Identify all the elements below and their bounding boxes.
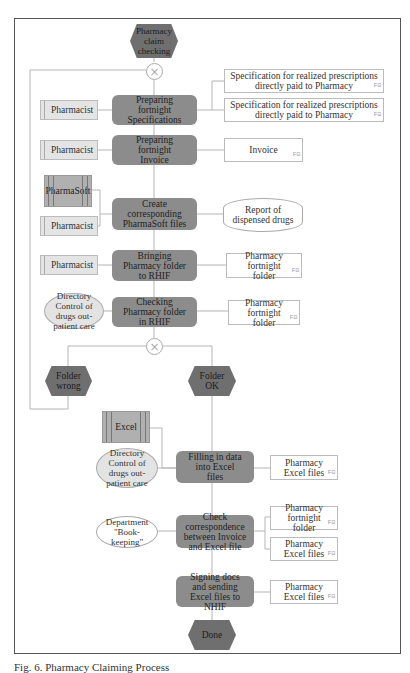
document-label: Pharmacy fortnight folder — [275, 503, 333, 533]
document-fortnight-folder-2: Pharmacy fortnight folderF⊟ — [228, 300, 300, 325]
function-check-correspondence: Check correspondence between Invoice and… — [176, 515, 254, 548]
document-label: Specification for realized prescriptions… — [229, 71, 379, 91]
role-pharmacist-1: Pharmacist — [40, 100, 98, 120]
document-label: Pharmacy fortnight folder — [235, 298, 293, 328]
function-create-pharmasoft-files: Create corresponding PharmaSoft files — [112, 198, 197, 230]
function-bringing-folder: Bringing Pharmacy folder to RHIF — [112, 250, 197, 281]
system-pharmasoft: PharmaSoft — [44, 175, 92, 207]
org-directory-drugs-1: Directory Control of drugs out-patient c… — [44, 293, 104, 329]
event-folder-ok: Folder OK — [188, 366, 236, 396]
document-label: Pharmacy Excel files — [277, 582, 331, 602]
document-tag-icon: F⊟ — [328, 549, 335, 559]
document-tag-icon: F⊟ — [328, 592, 335, 602]
event-folder-wrong: Folder wrong — [45, 366, 92, 396]
end-event: Done — [188, 620, 236, 650]
xor-gateway-2: × — [146, 338, 163, 355]
org-directory-drugs-2: Directory Control of drugs out-patient c… — [96, 448, 158, 488]
role-pharmacist-2: Pharmacist — [40, 140, 98, 160]
function-checking-folder: Checking Pharmacy folder in RHIF — [112, 297, 197, 327]
document-fortnight-folder-1: Pharmacy fortnight folderF⊟ — [226, 253, 302, 278]
function-filling-excel: Filling in data into Excel files — [176, 451, 254, 483]
document-label: Pharmacy fortnight folder — [235, 251, 293, 281]
document-label: Invoice — [249, 145, 278, 155]
document-tag-icon: F⊟ — [374, 110, 381, 120]
function-preparing-invoice: Preparing fortnight Invoice — [112, 135, 197, 165]
document-label: Specification for realized prescriptions… — [229, 100, 379, 120]
document-invoice: InvoiceF⊟ — [224, 138, 303, 162]
document-tag-icon: F⊟ — [374, 81, 381, 91]
document-tag-icon: F⊟ — [292, 266, 299, 276]
function-signing-sending: Signing docs and sending Excel files to … — [176, 576, 254, 607]
document-fortnight-folder-3: Pharmacy fortnight folderF⊟ — [270, 506, 338, 530]
document-tag-icon: F⊟ — [290, 313, 297, 323]
org-department-bookkeeping: Department "Book-keeping" — [96, 516, 158, 548]
start-event: Pharmacy claim checking — [130, 24, 178, 58]
document-excel-files-3: Pharmacy Excel filesF⊟ — [270, 580, 338, 604]
document-label: Pharmacy Excel files — [277, 539, 331, 559]
xor-gateway-1: × — [146, 63, 163, 80]
role-pharmacist-3: Pharmacist — [40, 216, 98, 236]
document-specification-1: Specification for realized prescriptions… — [224, 69, 384, 93]
document-tag-icon: F⊟ — [328, 468, 335, 478]
document-excel-files-1: Pharmacy Excel filesF⊟ — [270, 455, 338, 480]
document-tag-icon: F⊟ — [328, 518, 335, 528]
document-label: Pharmacy Excel files — [277, 458, 331, 478]
figure-caption: Fig. 6. Pharmacy Claiming Process — [14, 661, 169, 673]
document-specification-2: Specification for realized prescriptions… — [224, 98, 384, 122]
document-tag-icon: F⊟ — [293, 150, 300, 160]
role-pharmacist-4: Pharmacist — [40, 255, 98, 275]
system-excel: Excel — [102, 411, 150, 443]
function-preparing-specifications: Preparing fortnight Specifications — [112, 95, 197, 125]
database-report-dispensed-drugs: Report of dispensed drugs — [223, 198, 303, 232]
document-excel-files-2: Pharmacy Excel filesF⊟ — [270, 537, 338, 561]
